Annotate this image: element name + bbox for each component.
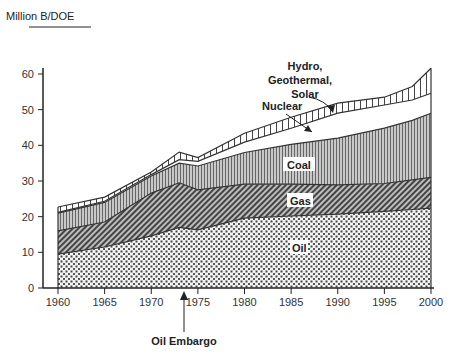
x-tick-label: 1960 bbox=[46, 296, 70, 308]
y-tick-label: 40 bbox=[22, 139, 34, 151]
plot-areas bbox=[58, 68, 431, 288]
y-tick-label: 0 bbox=[28, 282, 34, 294]
nuclear-label: Nuclear bbox=[262, 100, 303, 112]
x-tick-label: 1995 bbox=[372, 296, 396, 308]
y-ticks: 0102030405060 bbox=[22, 68, 43, 294]
x-tick-label: 1990 bbox=[326, 296, 350, 308]
stacked-area-chart: 0102030405060 19601965197019751980198519… bbox=[0, 0, 459, 359]
x-tick-label: 1980 bbox=[232, 296, 256, 308]
x-ticks: 196019651970197519801985199019952000 bbox=[46, 288, 443, 308]
oil-label: Oil bbox=[292, 242, 307, 254]
gas-label: Gas bbox=[290, 195, 311, 207]
y-tick-label: 20 bbox=[22, 211, 34, 223]
hydro-label-1: Hydro, bbox=[288, 60, 323, 72]
x-tick-label: 1975 bbox=[186, 296, 210, 308]
x-tick-label: 1985 bbox=[279, 296, 303, 308]
y-tick-label: 10 bbox=[22, 246, 34, 258]
y-axis-label: Million B/DOE bbox=[6, 10, 74, 22]
x-tick-label: 1965 bbox=[92, 296, 116, 308]
x-tick-label: 2000 bbox=[419, 296, 443, 308]
y-tick-label: 30 bbox=[22, 175, 34, 187]
y-tick-label: 60 bbox=[22, 68, 34, 80]
embargo-label: Oil Embargo bbox=[151, 335, 217, 347]
y-tick-label: 50 bbox=[22, 104, 34, 116]
x-tick-label: 1970 bbox=[139, 296, 163, 308]
coal-label: Coal bbox=[287, 159, 311, 171]
hydro-label-2: Geothermal, bbox=[268, 74, 332, 86]
